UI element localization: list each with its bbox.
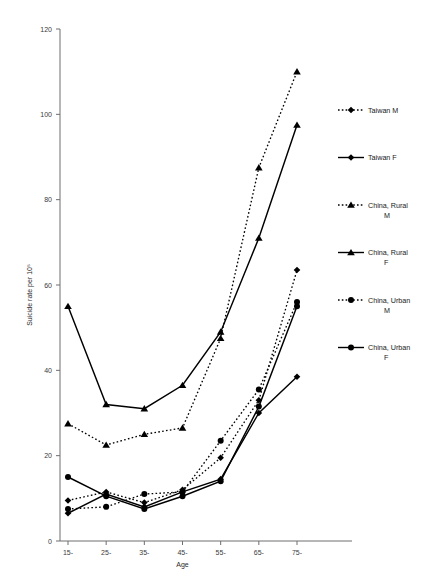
chart-legend: Taiwan MTaiwan FChina, RuralMChina, Rura…: [338, 106, 410, 363]
data-point-triangle: [102, 401, 110, 407]
x-tick-label: 65-: [254, 549, 265, 556]
legend-item-label: China, Urban: [368, 343, 410, 352]
y-tick-label: 120: [40, 26, 52, 33]
x-tick-label: 75-: [292, 549, 303, 556]
data-point-diamond: [348, 107, 355, 114]
data-point-circle: [256, 387, 262, 393]
series-line: [68, 125, 297, 409]
data-point-circle: [218, 478, 224, 484]
data-point-circle: [348, 297, 354, 303]
data-point-circle: [141, 491, 147, 497]
data-point-circle: [65, 474, 71, 480]
data-point-triangle: [293, 121, 301, 127]
data-point-diamond: [294, 267, 301, 274]
legend-item-label: China, Urban: [368, 296, 410, 305]
x-tick-label: 45-: [177, 549, 188, 556]
legend-item-china-rural-m[interactable]: China, RuralM: [338, 201, 408, 220]
chart-axes: 02040608010012015-25-35-45-55-65-75-AgeS…: [26, 26, 352, 569]
data-point-circle: [256, 404, 262, 410]
data-point-circle: [348, 345, 354, 351]
x-tick-label: 55-: [216, 549, 227, 556]
data-point-circle: [141, 506, 147, 512]
data-point-diamond: [348, 154, 355, 161]
line-chart: 02040608010012015-25-35-45-55-65-75-AgeS…: [0, 0, 430, 581]
x-tick-label: 15-: [63, 549, 74, 556]
y-tick-label: 40: [44, 367, 52, 374]
data-point-triangle: [64, 420, 72, 426]
legend-item-label: M: [384, 306, 390, 315]
y-tick-label: 80: [44, 196, 52, 203]
legend-item-taiwan-f[interactable]: Taiwan F: [338, 153, 397, 162]
legend-item-china-urban-m[interactable]: China, UrbanM: [338, 296, 410, 315]
data-point-circle: [103, 493, 109, 499]
legend-item-china-urban-f[interactable]: China, UrbanF: [338, 343, 410, 362]
legend-item-label: F: [384, 258, 389, 267]
y-axis-title: Suicide rate per 10⁵: [26, 264, 34, 326]
data-point-circle: [218, 438, 224, 444]
data-point-circle: [180, 493, 186, 499]
y-tick-label: 100: [40, 111, 52, 118]
data-point-circle: [103, 504, 109, 510]
y-tick-label: 60: [44, 282, 52, 289]
y-tick-label: 0: [48, 538, 52, 545]
data-point-triangle: [179, 424, 187, 430]
data-point-triangle: [102, 441, 110, 447]
legend-item-china-rural-f[interactable]: China, RuralF: [338, 248, 408, 267]
data-point-triangle: [64, 303, 72, 309]
x-tick-label: 35-: [139, 549, 150, 556]
data-point-circle: [65, 506, 71, 512]
legend-item-label: China, Rural: [368, 248, 408, 257]
series-china-rural-f: [64, 121, 301, 411]
y-tick-label: 20: [44, 452, 52, 459]
legend-item-taiwan-m[interactable]: Taiwan M: [338, 106, 398, 115]
data-point-triangle: [293, 68, 301, 74]
legend-item-label: Taiwan F: [368, 153, 397, 162]
data-point-triangle: [255, 164, 263, 170]
series-line: [68, 302, 297, 509]
data-point-triangle: [217, 328, 225, 334]
series-line: [68, 306, 297, 509]
legend-item-label: Taiwan M: [368, 106, 398, 115]
x-axis-title: Age: [176, 561, 189, 569]
chart-canvas: 02040608010012015-25-35-45-55-65-75-AgeS…: [0, 0, 430, 581]
data-point-triangle: [255, 234, 263, 240]
data-point-circle: [294, 303, 300, 309]
data-point-diamond: [65, 497, 72, 504]
x-tick-label: 25-: [101, 549, 112, 556]
legend-item-label: M: [384, 211, 390, 220]
chart-page: 02040608010012015-25-35-45-55-65-75-AgeS…: [0, 0, 430, 581]
series-china-urban-m: [65, 299, 300, 512]
legend-item-label: F: [384, 353, 389, 362]
legend-item-label: China, Rural: [368, 201, 408, 210]
